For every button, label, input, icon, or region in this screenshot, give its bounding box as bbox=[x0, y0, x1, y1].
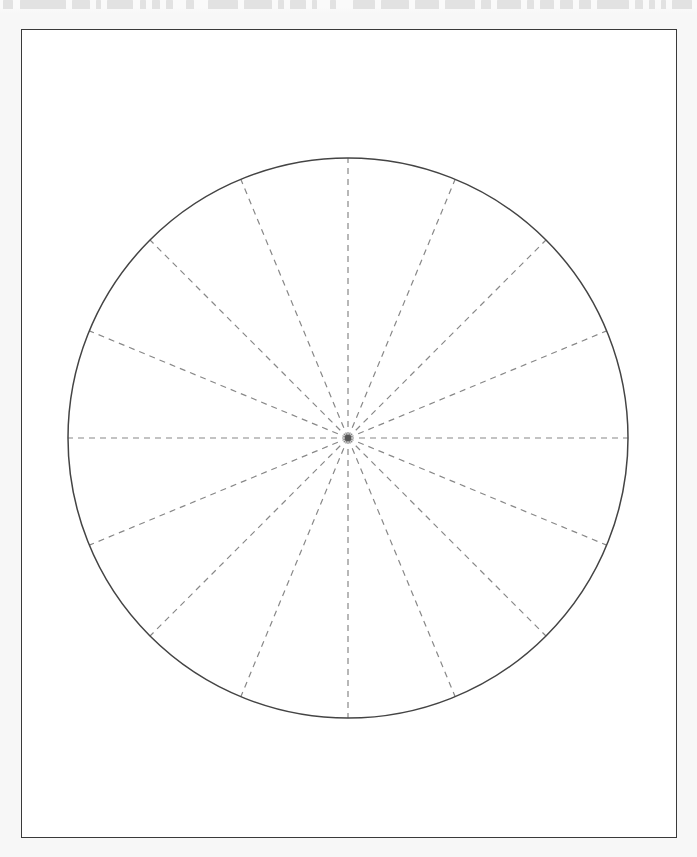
text-glyph-block bbox=[497, 0, 521, 9]
text-glyph-block bbox=[481, 0, 491, 9]
text-glyph-block bbox=[152, 0, 160, 9]
text-glyph-block bbox=[381, 0, 409, 9]
text-glyph-block bbox=[579, 0, 591, 9]
sliver-fade bbox=[0, 7, 697, 13]
text-glyph-block bbox=[415, 0, 439, 9]
text-glyph-block bbox=[3, 0, 13, 9]
text-glyph-block bbox=[290, 0, 306, 9]
text-glyph-block bbox=[445, 0, 475, 9]
text-glyph-block bbox=[166, 0, 173, 9]
cut-off-text-sliver bbox=[0, 0, 697, 13]
text-glyph-block bbox=[208, 0, 238, 9]
text-glyph-block bbox=[597, 0, 629, 9]
text-glyph-block bbox=[278, 0, 284, 9]
text-glyph-block bbox=[186, 0, 194, 9]
text-glyph-block bbox=[672, 0, 692, 9]
text-glyph-block bbox=[661, 0, 666, 9]
text-glyph-block bbox=[353, 0, 375, 9]
text-glyph-block bbox=[107, 0, 133, 9]
text-glyph-block bbox=[635, 0, 643, 9]
text-glyph-block bbox=[96, 0, 101, 9]
text-glyph-block bbox=[20, 0, 66, 9]
text-glyph-block bbox=[140, 0, 146, 9]
text-glyph-block bbox=[244, 0, 272, 9]
text-glyph-block bbox=[330, 0, 336, 9]
text-glyph-block bbox=[312, 0, 317, 9]
text-glyph-block bbox=[527, 0, 534, 9]
figure-frame bbox=[21, 29, 677, 838]
page-canvas: Circle divided into 16 equal sectors by … bbox=[0, 0, 697, 857]
text-glyph-block bbox=[649, 0, 655, 9]
text-glyph-block bbox=[540, 0, 554, 9]
text-glyph-block bbox=[560, 0, 573, 9]
text-glyph-block bbox=[72, 0, 90, 9]
